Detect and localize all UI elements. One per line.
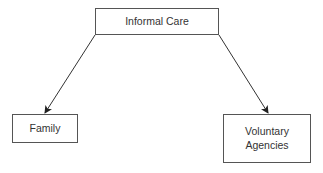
arrow-to-family	[45, 35, 95, 113]
informal-care-label: Informal Care	[125, 15, 189, 28]
informal-care-node: Informal Care	[95, 8, 219, 35]
family-label: Family	[30, 122, 61, 135]
voluntary-agencies-node: Voluntary Agencies	[223, 114, 311, 163]
family-node: Family	[12, 114, 78, 143]
arrow-to-voluntary-agencies	[219, 35, 268, 113]
voluntary-agencies-label-line2: Agencies	[245, 139, 289, 152]
voluntary-agencies-label-line1: Voluntary	[245, 125, 289, 138]
